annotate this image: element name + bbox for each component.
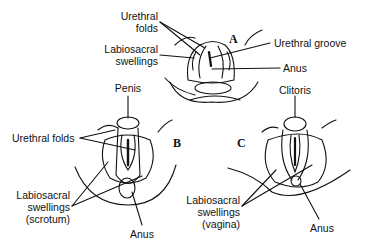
label-b-urethral-folds: Urethral folds — [12, 132, 74, 144]
label-b-penis: Penis — [113, 82, 143, 94]
panel-c-drawing — [228, 117, 350, 196]
label-a-urethral-folds: Urethral folds — [110, 10, 158, 34]
label-a-labiosacral-swellings: Labiosacral swellings — [88, 43, 158, 67]
label-c-labiosacral-swellings: Labiosacral swellings (vagina) — [178, 194, 240, 230]
label-b-labiosacral-swellings: Labiosacral swellings (scrotum) — [8, 189, 70, 225]
label-a-urethral-groove: Urethral groove — [274, 37, 346, 49]
label-b-anus: Anus — [130, 228, 154, 240]
panel-label-b: B — [173, 136, 181, 151]
label-a-anus: Anus — [283, 62, 307, 74]
panel-label-a: A — [229, 32, 238, 47]
panel-b-drawing — [75, 117, 176, 205]
panel-a-drawing — [165, 30, 262, 102]
label-c-clitoris: Clitoris — [273, 84, 317, 96]
label-c-anus: Anus — [310, 222, 334, 234]
diagram-canvas: A B C Urethral folds Labiosacral swellin… — [0, 0, 365, 250]
panel-label-c: C — [237, 136, 246, 151]
